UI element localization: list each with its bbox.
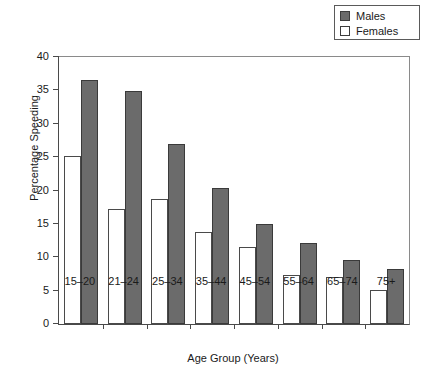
x-axis-tick-label: 35–44 [189, 275, 233, 287]
x-axis-tick-label: 45–54 [233, 275, 277, 287]
chart-legend: Males Females [334, 5, 420, 40]
bar-females [151, 199, 168, 324]
legend-label-males: Males [356, 11, 385, 22]
bar-females [108, 209, 125, 324]
y-axis-tick-label: 5 [43, 284, 49, 296]
x-axis-tick-label: 75+ [364, 275, 408, 287]
x-axis-tick-label: 21–24 [102, 275, 146, 287]
x-axis-tick-label: 55–64 [277, 275, 321, 287]
y-axis-tick-label: 35 [37, 83, 49, 95]
bar-males [125, 91, 142, 324]
y-axis-tick-label: 0 [43, 317, 49, 329]
chart-figure: Males Females Percentage Speeding 051015… [0, 0, 431, 374]
bar-females [64, 156, 81, 324]
x-axis-tick [365, 324, 366, 329]
legend-label-females: Females [356, 26, 398, 37]
y-axis-tick-label: 40 [37, 50, 49, 62]
y-axis-tick-label: 15 [37, 217, 49, 229]
bar-males [256, 224, 273, 324]
bar-males [343, 260, 360, 324]
bar-males [168, 144, 185, 324]
x-axis-tick [190, 324, 191, 329]
legend-item-females: Females [340, 24, 415, 38]
x-axis-title: Age Group (Years) [58, 352, 408, 364]
x-axis-tick-label: 15–20 [58, 275, 102, 287]
bar-females [370, 290, 387, 324]
x-axis-tick [278, 324, 279, 329]
y-axis-tick-label: 30 [37, 117, 49, 129]
bar-males [81, 80, 98, 324]
x-axis-tick [234, 324, 235, 329]
x-axis-tick [322, 324, 323, 329]
x-axis-tick [103, 324, 104, 329]
y-axis-tick-label: 10 [37, 250, 49, 262]
legend-swatch-females-icon [340, 26, 350, 36]
x-axis-tick-label: 25–34 [146, 275, 190, 287]
x-axis-tick [147, 324, 148, 329]
bar-males [212, 188, 229, 324]
legend-swatch-males-icon [340, 11, 350, 21]
legend-item-males: Males [340, 9, 415, 23]
y-axis-tick-label: 25 [37, 150, 49, 162]
x-axis-tick-label: 65–74 [321, 275, 365, 287]
y-axis-tick-label: 20 [37, 184, 49, 196]
